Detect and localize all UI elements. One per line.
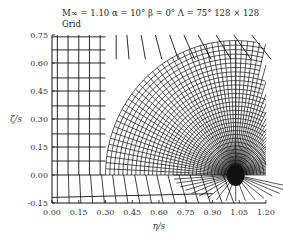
svg-text:0.90: 0.90: [204, 208, 222, 217]
svg-text:0.00: 0.00: [43, 208, 61, 217]
svg-text:0.30: 0.30: [30, 115, 48, 124]
svg-text:0.15: 0.15: [30, 143, 48, 152]
svg-text:0.30: 0.30: [97, 208, 115, 217]
svg-text:0.75: 0.75: [177, 208, 195, 217]
x-axis-label: η/s: [153, 221, 166, 231]
svg-text:1.05: 1.05: [230, 208, 248, 217]
svg-text:0.60: 0.60: [150, 208, 168, 217]
y-axis-label: ζ/s: [10, 114, 22, 124]
svg-text:0.45: 0.45: [123, 208, 141, 217]
svg-text:-0.15: -0.15: [27, 199, 48, 208]
svg-text:0.60: 0.60: [30, 59, 48, 68]
grid-plot: 0.000.150.300.450.600.750.901.051.200.75…: [0, 0, 283, 238]
axes: 0.000.150.300.450.600.750.901.051.200.75…: [10, 31, 275, 231]
svg-text:0.45: 0.45: [30, 87, 48, 96]
svg-text:0.00: 0.00: [30, 171, 48, 180]
svg-text:0.15: 0.15: [70, 208, 88, 217]
mesh-lines: [52, 35, 283, 203]
svg-text:0.75: 0.75: [30, 31, 48, 40]
svg-text:1.20: 1.20: [257, 208, 275, 217]
